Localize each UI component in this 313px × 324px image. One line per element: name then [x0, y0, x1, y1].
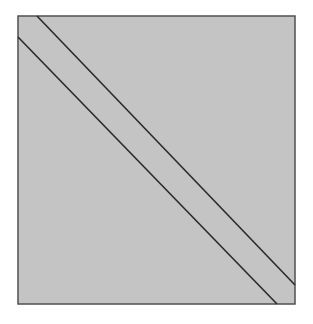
gray-square — [18, 16, 295, 304]
diagram-canvas — [0, 0, 313, 324]
diagram-svg — [0, 0, 313, 324]
